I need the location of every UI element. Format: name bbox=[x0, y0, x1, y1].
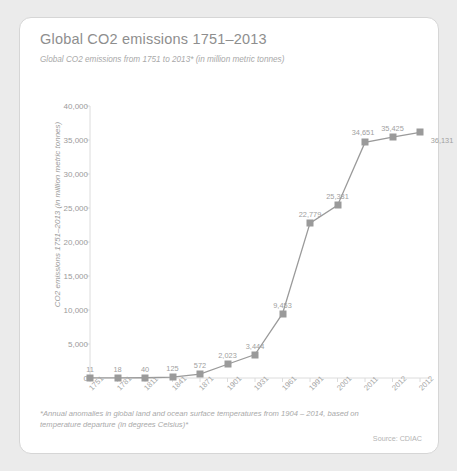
y-tick-label: 30,000 bbox=[64, 170, 88, 179]
y-tick-label: 10,000 bbox=[64, 306, 88, 315]
data-value-label: 9,453 bbox=[273, 301, 292, 310]
data-value-label: 572 bbox=[194, 361, 206, 370]
data-value-label: 35,425 bbox=[381, 124, 404, 133]
y-tick-label: 20,000 bbox=[64, 238, 88, 247]
chart-card: Global CO2 emissions 1751–2013 Global CO… bbox=[19, 17, 439, 454]
y-axis-tick-labels: 05,00010,00015,00020,00025,00030,00035,0… bbox=[38, 18, 88, 455]
data-marker bbox=[114, 374, 121, 381]
data-marker bbox=[142, 374, 149, 381]
data-value-label: 3,444 bbox=[246, 342, 265, 351]
y-tick-label: 35,000 bbox=[64, 136, 88, 145]
data-value-label: 25,381 bbox=[326, 192, 349, 201]
data-value-label: 11 bbox=[86, 365, 94, 374]
data-marker bbox=[307, 220, 314, 227]
y-tick-label: 40,000 bbox=[64, 102, 88, 111]
data-value-label: 36,131 bbox=[431, 136, 454, 145]
data-marker bbox=[169, 374, 176, 381]
data-value-label: 34,651 bbox=[352, 128, 375, 137]
chart-footnote: *Annual anomalies in global land and oce… bbox=[40, 408, 380, 430]
data-marker bbox=[252, 351, 259, 358]
plot-area: CO2 emissions 1751–2013 (in million metr… bbox=[20, 18, 440, 455]
y-tick-label: 15,000 bbox=[64, 272, 88, 281]
data-marker bbox=[389, 134, 396, 141]
data-marker bbox=[87, 374, 94, 381]
data-value-label: 22,779 bbox=[299, 210, 322, 219]
data-marker bbox=[279, 310, 286, 317]
data-value-label: 2,023 bbox=[218, 351, 237, 360]
y-tick-label: 25,000 bbox=[64, 204, 88, 213]
chart-source: Source: CDIAC bbox=[373, 434, 422, 443]
data-value-label: 125 bbox=[166, 364, 178, 373]
data-marker bbox=[197, 371, 204, 378]
data-marker bbox=[334, 202, 341, 209]
data-marker bbox=[224, 361, 231, 368]
data-marker bbox=[417, 129, 424, 136]
data-value-label: 40 bbox=[141, 365, 149, 374]
y-tick-label: 5,000 bbox=[68, 340, 88, 349]
data-value-label: 18 bbox=[113, 365, 121, 374]
data-marker bbox=[362, 139, 369, 146]
